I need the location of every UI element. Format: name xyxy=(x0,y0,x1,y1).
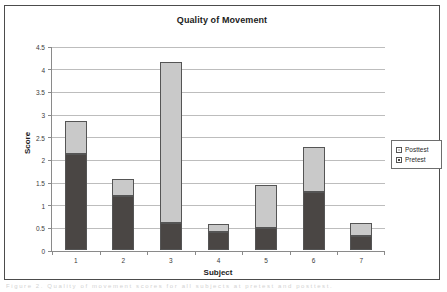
bar-segment-posttest[interactable] xyxy=(303,147,325,192)
bar-stack[interactable] xyxy=(255,185,277,250)
x-axis-tick-label: 7 xyxy=(359,257,363,264)
bar-segment-posttest[interactable] xyxy=(65,121,87,154)
y-axis-tick-label: 3 xyxy=(41,112,45,119)
y-axis-tick-label: 2 xyxy=(41,157,45,164)
bar-segment-pretest[interactable] xyxy=(160,223,182,250)
y-axis-tick xyxy=(48,183,52,184)
gridline xyxy=(52,205,385,206)
gridline xyxy=(52,251,385,252)
gridline xyxy=(52,115,385,116)
y-axis-tick xyxy=(48,47,52,48)
y-axis-tick-label: 3.5 xyxy=(36,89,45,96)
y-axis-tick xyxy=(48,137,52,138)
y-axis-tick-label: 0.5 xyxy=(36,225,45,232)
legend-label-posttest: Posttest xyxy=(405,145,428,154)
x-axis-tick xyxy=(242,251,243,255)
bar-segment-posttest[interactable] xyxy=(112,179,134,195)
chart-legend: Posttest Pretest xyxy=(391,140,442,169)
x-axis-tick-label: 1 xyxy=(74,257,78,264)
y-axis-tick-label: 4.5 xyxy=(36,44,45,51)
bar-segment-posttest[interactable] xyxy=(160,62,182,223)
gridline xyxy=(52,183,385,184)
x-axis-tick-label: 6 xyxy=(312,257,316,264)
bar-stack[interactable] xyxy=(350,223,372,250)
y-axis-tick xyxy=(48,69,52,70)
x-axis-tick xyxy=(337,251,338,255)
bar-segment-posttest[interactable] xyxy=(255,185,277,228)
x-axis-tick xyxy=(195,251,196,255)
chart-frame: Quality of Movement Score Subject 00.511… xyxy=(4,5,440,280)
y-axis-tick-label: 1.5 xyxy=(36,180,45,187)
bar-stack[interactable] xyxy=(303,147,325,250)
x-axis-tick xyxy=(52,251,53,255)
bar-stack[interactable] xyxy=(112,179,134,250)
x-axis-tick xyxy=(100,251,101,255)
bar-segment-posttest[interactable] xyxy=(208,224,230,232)
y-axis-tick xyxy=(48,92,52,93)
bar-stack[interactable] xyxy=(160,62,182,250)
x-axis-tick xyxy=(147,251,148,255)
legend-swatch-pretest-icon xyxy=(396,157,402,163)
legend-item-pretest[interactable]: Pretest xyxy=(396,155,438,164)
bar-stack[interactable] xyxy=(208,224,230,250)
bar-stack[interactable] xyxy=(65,121,87,250)
x-axis-tick xyxy=(384,251,385,255)
plot-inner: 00.511.522.533.544.51234567 xyxy=(52,47,385,251)
y-axis-tick-label: 4 xyxy=(41,66,45,73)
bar-segment-pretest[interactable] xyxy=(303,192,325,250)
y-axis-tick xyxy=(48,115,52,116)
legend-label-pretest: Pretest xyxy=(405,155,426,164)
x-axis-title: Subject xyxy=(51,268,385,277)
y-axis-tick xyxy=(48,205,52,206)
y-axis-tick xyxy=(48,228,52,229)
x-axis-tick xyxy=(290,251,291,255)
chart-screenshot: Quality of Movement Score Subject 00.511… xyxy=(0,0,447,292)
x-axis-tick-label: 2 xyxy=(122,257,126,264)
page-caption-text: Figure 2. Quality of movement scores for… xyxy=(6,283,441,289)
x-axis-tick-label: 4 xyxy=(217,257,221,264)
plot-area: 00.511.522.533.544.51234567 xyxy=(51,47,385,252)
y-axis-tick xyxy=(48,160,52,161)
legend-swatch-posttest-icon xyxy=(396,147,402,153)
bar-segment-pretest[interactable] xyxy=(255,228,277,250)
x-axis-tick-label: 5 xyxy=(264,257,268,264)
y-axis-tick-label: 2.5 xyxy=(36,134,45,141)
bar-segment-pretest[interactable] xyxy=(208,232,230,250)
x-axis-tick-label: 3 xyxy=(169,257,173,264)
y-axis-tick-label: 0 xyxy=(41,248,45,255)
chart-title: Quality of Movement xyxy=(5,15,439,25)
gridline xyxy=(52,92,385,93)
bar-segment-pretest[interactable] xyxy=(112,196,134,250)
gridline xyxy=(52,47,385,48)
gridline xyxy=(52,160,385,161)
bar-segment-pretest[interactable] xyxy=(65,154,87,250)
y-axis-tick-label: 1 xyxy=(41,202,45,209)
gridline xyxy=(52,137,385,138)
bar-segment-pretest[interactable] xyxy=(350,236,372,250)
gridline xyxy=(52,69,385,70)
legend-item-posttest[interactable]: Posttest xyxy=(396,145,438,154)
bar-segment-posttest[interactable] xyxy=(350,223,372,237)
y-axis-title: Score xyxy=(23,131,32,153)
